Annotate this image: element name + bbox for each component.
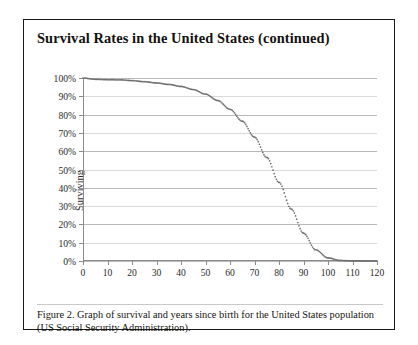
survival-curve bbox=[83, 78, 377, 261]
x-tick-label-40: 40 bbox=[176, 267, 186, 278]
figure-title: Survival Rates in the United States (con… bbox=[37, 30, 330, 47]
figure-box: Survival Rates in the United States (con… bbox=[23, 19, 395, 330]
chart-inner-plot: Surviving 0%10%20%30%40%50%60%70%80%90%1… bbox=[83, 78, 377, 261]
x-tick-100 bbox=[328, 261, 329, 265]
caption-divider bbox=[37, 304, 383, 305]
y-tick-label-40: 40% bbox=[58, 182, 76, 193]
x-tick-label-90: 90 bbox=[299, 267, 309, 278]
x-tick-label-80: 80 bbox=[274, 267, 284, 278]
x-tick-label-120: 120 bbox=[370, 267, 384, 278]
chart-plot-area: Surviving 0%10%20%30%40%50%60%70%80%90%1… bbox=[60, 60, 384, 286]
x-tick-label-50: 50 bbox=[201, 267, 211, 278]
y-tick-label-20: 20% bbox=[58, 219, 76, 230]
x-tick-80 bbox=[279, 261, 280, 265]
figure-caption: Figure 2. Graph of survival and years si… bbox=[37, 308, 382, 335]
y-tick-label-30: 30% bbox=[58, 201, 76, 212]
y-tick-label-10: 10% bbox=[58, 237, 76, 248]
y-tick-label-90: 90% bbox=[58, 91, 76, 102]
y-tick-label-70: 70% bbox=[58, 127, 76, 138]
x-tick-60 bbox=[230, 261, 231, 265]
y-tick-label-80: 80% bbox=[58, 109, 76, 120]
x-tick-0 bbox=[83, 261, 84, 265]
x-tick-label-20: 20 bbox=[127, 267, 137, 278]
x-tick-10 bbox=[108, 261, 109, 265]
x-tick-label-30: 30 bbox=[152, 267, 162, 278]
scan-header-text bbox=[6, 0, 126, 10]
x-tick-label-60: 60 bbox=[225, 267, 235, 278]
x-tick-20 bbox=[132, 261, 133, 265]
x-tick-label-0: 0 bbox=[81, 267, 86, 278]
figure-page: Survival Rates in the United States (con… bbox=[0, 0, 418, 345]
x-tick-label-10: 10 bbox=[103, 267, 113, 278]
y-tick-label-0: 0% bbox=[63, 256, 76, 267]
x-tick-40 bbox=[181, 261, 182, 265]
x-tick-label-100: 100 bbox=[321, 267, 335, 278]
x-tick-50 bbox=[206, 261, 207, 265]
x-tick-70 bbox=[255, 261, 256, 265]
y-tick-label-100: 100% bbox=[54, 73, 76, 84]
y-tick-label-60: 60% bbox=[58, 146, 76, 157]
x-tick-90 bbox=[304, 261, 305, 265]
x-tick-30 bbox=[157, 261, 158, 265]
y-tick-label-50: 50% bbox=[58, 164, 76, 175]
x-tick-label-70: 70 bbox=[250, 267, 260, 278]
x-tick-label-110: 110 bbox=[345, 267, 359, 278]
